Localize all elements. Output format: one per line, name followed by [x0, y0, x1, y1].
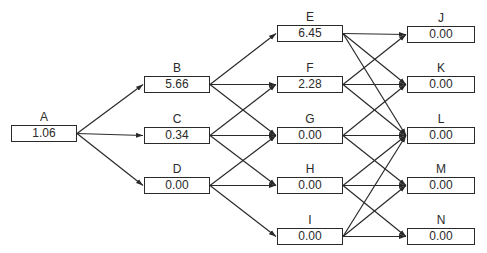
node-label: B	[144, 62, 210, 74]
node-value-box: 0.00	[407, 127, 475, 144]
node-value-box: 0.34	[144, 127, 210, 144]
node-label: I	[277, 214, 343, 226]
node-value-box: 0.00	[277, 177, 343, 194]
node-value-box: 0.00	[144, 177, 210, 194]
node-label: A	[11, 111, 77, 123]
node-label: J	[407, 12, 475, 24]
node-label: K	[407, 62, 475, 74]
node-value-box: 0.00	[407, 177, 475, 194]
node-k: K0.00	[407, 62, 475, 93]
node-l: L0.00	[407, 113, 475, 144]
node-value-box: 5.66	[144, 76, 210, 93]
node-label: F	[277, 62, 343, 74]
node-a: A1.06	[11, 111, 77, 142]
edge-a-d	[77, 134, 143, 186]
node-value-box: 0.00	[277, 127, 343, 144]
edge-a-c	[77, 134, 143, 136]
node-label: H	[277, 163, 343, 175]
node-label: C	[144, 113, 210, 125]
node-h: H0.00	[277, 163, 343, 194]
node-d: D0.00	[144, 163, 210, 194]
node-label: E	[277, 11, 343, 23]
node-label: G	[277, 113, 343, 125]
node-j: J0.00	[407, 12, 475, 43]
edge-e-j	[343, 34, 406, 35]
node-g: G0.00	[277, 113, 343, 144]
node-n: N0.00	[407, 214, 475, 245]
node-m: M0.00	[407, 163, 475, 194]
node-value-box: 0.00	[407, 228, 475, 245]
node-value-box: 1.06	[11, 125, 77, 142]
node-value-box: 2.28	[277, 76, 343, 93]
node-e: E6.45	[277, 11, 343, 42]
node-value-box: 0.00	[407, 26, 475, 43]
edge-b-e	[210, 34, 276, 85]
node-b: B5.66	[144, 62, 210, 93]
edge-a-b	[77, 85, 143, 134]
node-label: L	[407, 113, 475, 125]
edge-d-i	[210, 186, 276, 237]
node-c: C0.34	[144, 113, 210, 144]
node-value-box: 6.45	[277, 25, 343, 42]
node-value-box: 0.00	[407, 76, 475, 93]
node-f: F2.28	[277, 62, 343, 93]
node-label: D	[144, 163, 210, 175]
node-value-box: 0.00	[277, 228, 343, 245]
node-label: M	[407, 163, 475, 175]
node-label: N	[407, 214, 475, 226]
node-i: I0.00	[277, 214, 343, 245]
network-diagram: A1.06B5.66C0.34D0.00E6.45F2.28G0.00H0.00…	[0, 0, 487, 253]
